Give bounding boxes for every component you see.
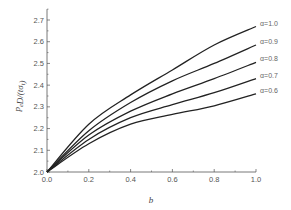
y-tick-label: 2.0 [34, 168, 44, 177]
series-line [47, 94, 256, 172]
series-line [47, 62, 256, 172]
y-tick-label: 2.2 [34, 124, 44, 133]
x-axis-title: b [149, 195, 154, 205]
y-tick-label: 2.6 [34, 37, 44, 46]
series-line [47, 45, 256, 172]
line-chart: 0.00.20.40.60.81.0 2.02.12.22.32.42.52.6… [0, 0, 291, 210]
data-series [47, 27, 256, 172]
x-tick-label: 0.6 [167, 175, 177, 184]
series-label: α=0.7 [260, 72, 278, 79]
x-axis-ticks: 0.00.20.40.60.81.0 [42, 169, 261, 184]
x-tick-label: 0.4 [125, 175, 135, 184]
y-axis-ticks: 2.02.12.22.32.42.52.62.7 [34, 9, 50, 176]
series-label: α=0.9 [260, 38, 278, 45]
series-label: α=1.0 [260, 20, 278, 27]
y-tick-label: 2.5 [34, 59, 44, 68]
y-tick-label: 2.1 [34, 146, 44, 155]
y-axis-title: peD/(tσt) [12, 80, 27, 112]
x-tick-label: 1.0 [251, 175, 261, 184]
x-tick-label: 0.2 [84, 175, 94, 184]
series-labels: α=1.0α=0.9α=0.8α=0.7α=0.6 [260, 20, 278, 94]
y-tick-label: 2.7 [34, 16, 44, 25]
x-tick-label: 0.8 [209, 175, 219, 184]
series-line [47, 79, 256, 172]
y-tick-label: 2.4 [34, 81, 44, 90]
series-label: α=0.8 [260, 55, 278, 62]
y-tick-label: 2.3 [34, 102, 44, 111]
series-label: α=0.6 [260, 87, 278, 94]
